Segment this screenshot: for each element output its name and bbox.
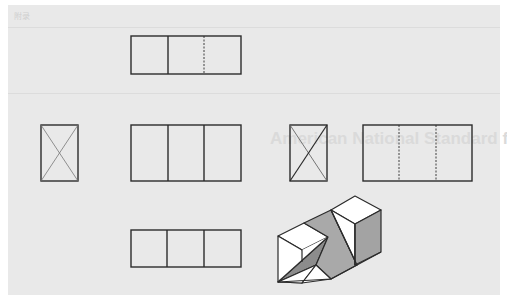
rear-view (363, 125, 472, 181)
top-view (131, 36, 241, 74)
right-side-view (290, 125, 327, 181)
front-view (131, 125, 241, 181)
orthographic-drawing (0, 0, 507, 305)
isometric-view (278, 196, 381, 283)
bottom-view (131, 230, 241, 267)
left-side-view (41, 125, 78, 181)
